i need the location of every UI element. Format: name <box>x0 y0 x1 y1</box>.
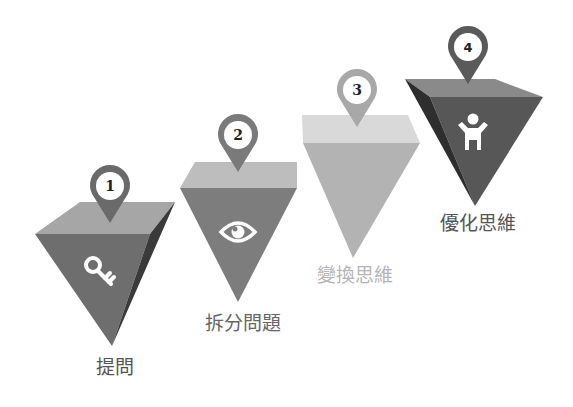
step-4-pyramid <box>405 79 543 206</box>
step-2-front-face <box>180 188 297 302</box>
pyramid-diagram-canvas: 1 2 3 4 <box>0 0 573 407</box>
step-3-front-face <box>303 143 420 258</box>
step-4-pin: 4 <box>448 26 488 84</box>
step-3-number: 3 <box>352 82 362 98</box>
step-2-number: 2 <box>233 127 243 143</box>
step-1-label: 提問 <box>96 356 134 378</box>
step-4-label: 優化思維 <box>440 212 516 234</box>
step-1-number: 1 <box>105 178 115 194</box>
step-2-label: 拆分問題 <box>205 312 281 334</box>
step-3-pyramid <box>302 115 420 258</box>
process-diagram: 1 2 3 4 提問 拆分問題 變換思維 優化思維 <box>0 0 573 407</box>
step-4-number: 4 <box>463 40 472 55</box>
step-1-pyramid <box>35 202 175 346</box>
step-3-label: 變換思維 <box>317 264 393 286</box>
step-2-pyramid <box>180 162 297 302</box>
